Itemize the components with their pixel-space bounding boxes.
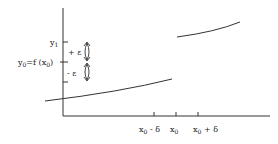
diagram-canvas: y1 y0=f (x0) + ε - ε x0 - δ x0 x0 + δ bbox=[0, 0, 278, 144]
label-x0: x0 bbox=[170, 125, 179, 135]
label-x0-minus-delta: x0 - δ bbox=[139, 125, 160, 135]
plus-epsilon-arrow-icon bbox=[84, 42, 90, 61]
minus-epsilon-arrow-icon bbox=[84, 63, 90, 81]
label-minus-epsilon: - ε bbox=[67, 69, 76, 78]
label-plus-epsilon: + ε bbox=[68, 48, 81, 57]
label-x0-plus-delta: x0 + δ bbox=[193, 125, 218, 135]
label-y0-fx0: y0=f (x0) bbox=[17, 58, 53, 68]
label-y1: y1 bbox=[49, 38, 58, 48]
curve-right-branch bbox=[177, 22, 240, 37]
